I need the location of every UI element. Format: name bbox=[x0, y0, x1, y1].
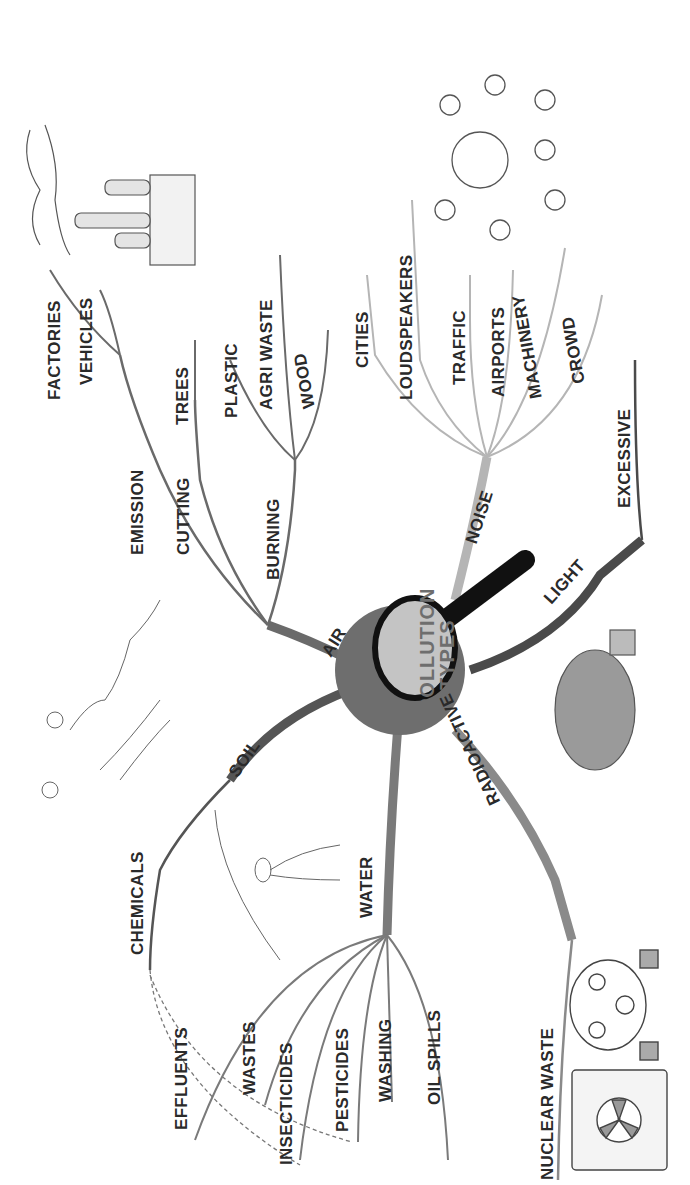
radioactive-barrel-illustration bbox=[572, 1070, 667, 1170]
landscape-illustration bbox=[42, 600, 170, 798]
air-vehicles-label: VEHICLES bbox=[77, 298, 97, 385]
branch-label-water: WATER bbox=[357, 856, 377, 918]
air-plastic-label: PLASTIC bbox=[222, 343, 242, 418]
water-pesticides-label: PESTICIDES bbox=[333, 1028, 353, 1132]
noise-traffic-label: TRAFFIC bbox=[450, 310, 470, 385]
center-title-line2: TYPES bbox=[436, 619, 459, 690]
air-factories-label: FACTORIES bbox=[45, 300, 65, 400]
noise-loudspeakers-label: LOUDSPEAKERS bbox=[397, 255, 417, 400]
air-trees-label: TREES bbox=[173, 367, 193, 425]
noise-airports-label: AIRPORTS bbox=[489, 307, 509, 397]
soil-chemicals-label: CHEMICALS bbox=[128, 851, 148, 955]
water-insecticides-label: INSECTICIDES bbox=[277, 1042, 297, 1165]
soil-branch bbox=[150, 690, 350, 970]
light-bulb-illustration bbox=[555, 630, 635, 770]
air-cutting-label: CUTTING bbox=[174, 477, 194, 555]
water-effluents-label: EFFLUENTS bbox=[172, 1027, 192, 1130]
air-emission-label: EMISSION bbox=[128, 469, 148, 555]
air-agri-waste-label: AGRI WASTE bbox=[257, 299, 277, 410]
mind-map-canvas bbox=[0, 0, 690, 1185]
noise-cities-label: CITIES bbox=[353, 311, 373, 368]
noisy-globe-illustration bbox=[435, 75, 565, 240]
factory-smoke-illustration bbox=[27, 125, 195, 265]
water-pipe-illustration bbox=[215, 810, 340, 960]
water-washing-label: WASHING bbox=[376, 1019, 396, 1102]
radioactive-nuclear-waste-label: NUCLEAR WASTE bbox=[538, 1028, 558, 1180]
water-wastes-label: WASTES bbox=[240, 1021, 260, 1095]
gas-mask-illustration bbox=[570, 950, 658, 1060]
air-burning-label: BURNING bbox=[264, 499, 284, 580]
water-oil-spills-label: OIL SPILLS bbox=[425, 1010, 445, 1105]
light-excessive-label: EXCESSIVE bbox=[615, 409, 635, 508]
